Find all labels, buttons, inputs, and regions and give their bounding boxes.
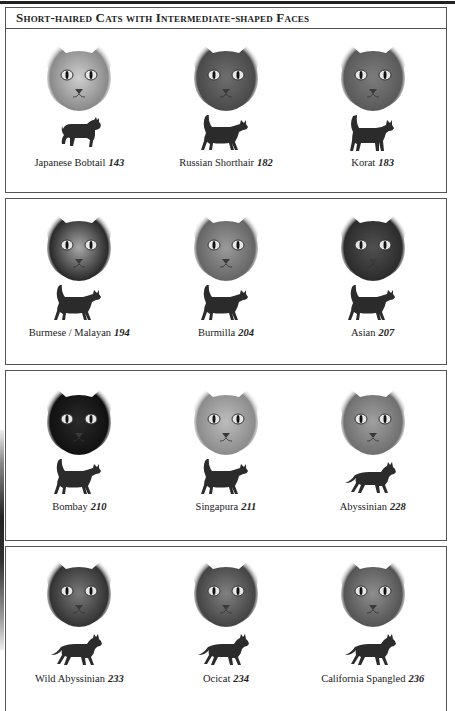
walking-cat-tail-up-icon xyxy=(196,115,256,153)
breed-name: Ocicat xyxy=(203,673,230,684)
cat-face-photo xyxy=(334,33,412,113)
cat-face-photo xyxy=(40,549,118,629)
page-number: 182 xyxy=(257,157,273,168)
cat-entry-abyssinian: Abyssinian228 xyxy=(303,377,443,512)
cat-entry-japanese-bobtail: Japanese Bobtail143 xyxy=(9,33,149,168)
cat-caption: Ocicat234 xyxy=(203,673,249,684)
breed-name: Abyssinian xyxy=(340,501,387,512)
cat-entry-california-spangled: California Spangled236 xyxy=(303,549,443,684)
walking-cat-tail-down-icon xyxy=(343,459,403,497)
cat-caption: Russian Shorthair182 xyxy=(179,157,273,168)
walking-cat-tail-up-icon xyxy=(343,285,403,323)
breed-name: California Spangled xyxy=(321,673,405,684)
cat-face-photo xyxy=(187,377,265,457)
cat-caption: Korat183 xyxy=(351,157,394,168)
page-number: 233 xyxy=(108,673,124,684)
cat-caption: Wild Abyssinian233 xyxy=(35,673,124,684)
breed-name: Burmilla xyxy=(198,327,235,338)
cat-row: Japanese Bobtail143 Russian Shorthair182 xyxy=(6,33,446,168)
standing-cat-tail-up-icon xyxy=(343,115,403,153)
page-number: 234 xyxy=(233,673,249,684)
cat-entry-bombay: Bombay210 xyxy=(9,377,149,512)
breed-name: Bombay xyxy=(52,501,88,512)
page-number: 183 xyxy=(378,157,394,168)
walking-cat-tail-down-icon xyxy=(49,631,109,669)
panel-row-4: Wild Abyssinian233 Ocicat234 xyxy=(5,546,447,711)
cat-face-photo xyxy=(187,549,265,629)
panel-row-3: Bombay210 Singapura211 xyxy=(5,370,447,541)
cat-entry-burmese-malayan: Burmese / Malayan194 xyxy=(9,203,149,338)
breed-name: Singapura xyxy=(196,501,239,512)
cat-caption: Abyssinian228 xyxy=(340,501,406,512)
page-number: 211 xyxy=(241,501,256,512)
walking-cat-tail-up-icon xyxy=(49,285,109,323)
cat-face-photo xyxy=(187,203,265,283)
cat-row: Bombay210 Singapura211 xyxy=(6,377,446,512)
panel-row-2: Burmese / Malayan194 Burmilla204 xyxy=(5,198,447,365)
cat-face-photo xyxy=(334,203,412,283)
cat-entry-korat: Korat183 xyxy=(303,33,443,168)
cat-caption: Asian207 xyxy=(351,327,394,338)
page-number: 143 xyxy=(108,157,124,168)
cat-entry-ocicat: Ocicat234 xyxy=(156,549,296,684)
cat-caption: California Spangled236 xyxy=(321,673,424,684)
cat-caption: Singapura211 xyxy=(196,501,257,512)
title-bar: Short-haired Cats with Intermediate-shap… xyxy=(6,8,446,29)
walking-cat-tail-up-icon xyxy=(196,459,256,497)
walking-cat-tail-up-icon xyxy=(196,285,256,323)
breed-name: Japanese Bobtail xyxy=(35,157,106,168)
cat-entry-asian: Asian207 xyxy=(303,203,443,338)
cat-caption: Japanese Bobtail143 xyxy=(35,157,125,168)
cat-entry-russian-shorthair: Russian Shorthair182 xyxy=(156,33,296,168)
page-number: 228 xyxy=(390,501,406,512)
top-rule xyxy=(0,1,455,4)
cat-caption: Burmese / Malayan194 xyxy=(29,327,130,338)
cat-entry-wild-abyssinian: Wild Abyssinian233 xyxy=(9,549,149,684)
cat-face-photo xyxy=(334,377,412,457)
breed-name: Burmese / Malayan xyxy=(29,327,111,338)
breed-name: Asian xyxy=(351,327,376,338)
breed-name: Russian Shorthair xyxy=(179,157,254,168)
cat-face-photo xyxy=(40,33,118,113)
page-number: 236 xyxy=(408,673,424,684)
page-number: 207 xyxy=(379,327,395,338)
cat-entry-burmilla: Burmilla204 xyxy=(156,203,296,338)
page-title: Short-haired Cats with Intermediate-shap… xyxy=(16,10,309,26)
walking-cat-tail-up-icon xyxy=(49,459,109,497)
page-number: 210 xyxy=(91,501,107,512)
breed-name: Korat xyxy=(351,157,375,168)
cat-caption: Bombay210 xyxy=(52,501,106,512)
cat-face-photo xyxy=(40,203,118,283)
cat-face-photo xyxy=(40,377,118,457)
page-number: 204 xyxy=(238,327,254,338)
breed-name: Wild Abyssinian xyxy=(35,673,105,684)
cat-entry-singapura: Singapura211 xyxy=(156,377,296,512)
walking-cat-tail-down-icon xyxy=(196,631,256,669)
page-binding-shadow xyxy=(0,430,4,650)
panel-row-1: Short-haired Cats with Intermediate-shap… xyxy=(5,7,447,193)
bobtail-silhouette-icon xyxy=(49,115,109,153)
cat-caption: Burmilla204 xyxy=(198,327,254,338)
cat-face-photo xyxy=(187,33,265,113)
cat-row: Wild Abyssinian233 Ocicat234 xyxy=(6,549,446,684)
cat-row: Burmese / Malayan194 Burmilla204 xyxy=(6,203,446,338)
cat-face-photo xyxy=(334,549,412,629)
page-number: 194 xyxy=(114,327,130,338)
walking-cat-tail-down-icon xyxy=(343,631,403,669)
